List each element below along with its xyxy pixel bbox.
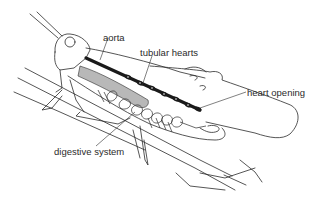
digestive-system-leader bbox=[96, 112, 135, 146]
hind-leg bbox=[133, 130, 140, 158]
wing bbox=[150, 66, 298, 138]
antenna bbox=[30, 14, 58, 38]
grass-stem bbox=[176, 173, 225, 190]
tubular-hearts-leader bbox=[142, 56, 152, 86]
label-digestive-system: digestive system bbox=[54, 147, 124, 157]
grass-stem bbox=[25, 68, 232, 176]
wing-notch bbox=[200, 85, 206, 90]
label-tubular-hearts: tubular hearts bbox=[140, 48, 198, 58]
label-aorta: aorta bbox=[103, 33, 125, 43]
heart-opening-leader bbox=[200, 92, 246, 108]
grass-stem bbox=[240, 160, 262, 182]
grasshopper-drawing bbox=[0, 0, 320, 204]
label-heart-opening: heart opening bbox=[247, 88, 305, 98]
grass-stem bbox=[224, 175, 246, 185]
front-leg bbox=[42, 90, 62, 110]
mid-leg bbox=[76, 112, 130, 124]
antenna bbox=[37, 12, 62, 36]
grasshopper-diagram: aorta tubular hearts heart opening diges… bbox=[0, 0, 320, 204]
head-outline bbox=[55, 34, 90, 70]
digestive-coils bbox=[98, 90, 206, 132]
wing-notch bbox=[190, 75, 197, 80]
eye bbox=[65, 37, 75, 47]
